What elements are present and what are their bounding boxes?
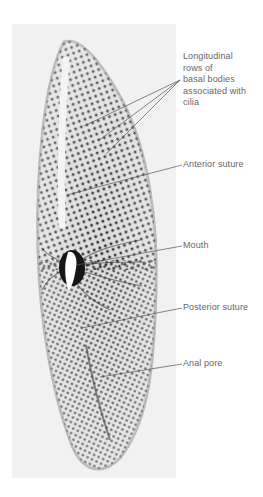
label-basal-bodies: Longitudinal rows of basal bodies associ…: [183, 51, 246, 109]
label-posterior-suture: Posterior suture: [183, 302, 248, 314]
label-anal-pore: Anal pore: [183, 358, 222, 370]
label-anterior-suture: Anterior suture: [183, 159, 244, 171]
label-mouth: Mouth: [183, 240, 209, 252]
basal-body-rows: [30, 30, 170, 480]
paramecium-figure: Longitudinal rows of basal bodies associ…: [0, 0, 263, 497]
